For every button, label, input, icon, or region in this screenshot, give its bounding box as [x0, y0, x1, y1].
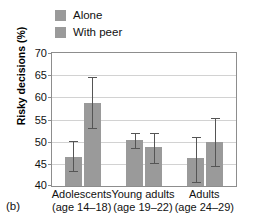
legend-label-with-peer: With peer	[73, 27, 122, 38]
y-tick-label: 45	[35, 158, 47, 169]
error-cap-upper	[150, 133, 159, 134]
error-cap-lower	[131, 148, 140, 149]
y-tick-label: 55	[35, 114, 47, 125]
error-cap-lower	[192, 182, 201, 183]
error-bar	[154, 133, 155, 163]
error-cap-upper	[88, 77, 97, 78]
y-tick-mark	[48, 75, 52, 76]
y-tick-label: 70	[35, 48, 47, 59]
x-label-line2: (age 24–29)	[159, 201, 249, 214]
y-tick-mark	[48, 185, 52, 186]
plot-area: 40455055606570	[51, 52, 237, 187]
error-bar	[135, 133, 136, 149]
gridline	[52, 97, 236, 98]
error-cap-upper	[211, 118, 220, 119]
error-cap-upper	[131, 133, 140, 134]
error-cap-lower	[211, 166, 220, 167]
y-tick-label: 65	[35, 70, 47, 81]
y-tick-mark	[48, 164, 52, 165]
gridline	[52, 75, 236, 76]
error-bar	[215, 118, 216, 166]
y-axis-title: Risky decisions (%)	[15, 11, 27, 141]
chart-legend: Alone With peer	[55, 7, 122, 41]
x-axis-group-label: Adults(age 24–29)	[159, 188, 249, 214]
x-label-line1: Adults	[189, 188, 220, 200]
y-tick-mark	[48, 142, 52, 143]
error-cap-lower	[88, 128, 97, 129]
legend-swatch-alone	[55, 10, 66, 21]
error-cap-upper	[192, 137, 201, 138]
gridline	[52, 120, 236, 121]
y-tick-mark	[48, 120, 52, 121]
figure-panel-b: Alone With peer Risky decisions (%) 4045…	[0, 0, 255, 223]
y-tick-mark	[48, 53, 52, 54]
legend-item-with-peer: With peer	[55, 24, 122, 41]
y-tick-label: 60	[35, 92, 47, 103]
panel-label: (b)	[6, 200, 20, 212]
y-tick-mark	[48, 97, 52, 98]
legend-swatch-with-peer	[55, 27, 66, 38]
error-bar	[196, 137, 197, 182]
error-cap-lower	[150, 163, 159, 164]
error-cap-lower	[69, 171, 78, 172]
error-cap-upper	[69, 141, 78, 142]
error-bar	[92, 77, 93, 128]
y-tick-label: 50	[35, 136, 47, 147]
error-bar	[73, 141, 74, 172]
legend-label-alone: Alone	[73, 10, 102, 21]
legend-item-alone: Alone	[55, 7, 122, 24]
